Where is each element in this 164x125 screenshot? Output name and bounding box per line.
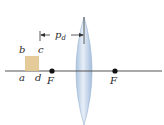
focal-point-left: [49, 68, 54, 73]
object-square: [25, 56, 39, 71]
pd-label: pd: [55, 29, 66, 42]
corner-label-b: b: [19, 44, 25, 55]
corner-label-c: c: [38, 44, 44, 55]
corner-label-a: a: [19, 72, 25, 83]
pd-arrowhead-left: [40, 33, 45, 37]
focal-label-left: F: [46, 75, 55, 86]
focal-label-right: F: [109, 75, 118, 86]
focal-point-right: [112, 68, 117, 73]
optics-diagram: pd b c a d F F: [0, 0, 164, 125]
corner-label-d: d: [35, 72, 41, 83]
